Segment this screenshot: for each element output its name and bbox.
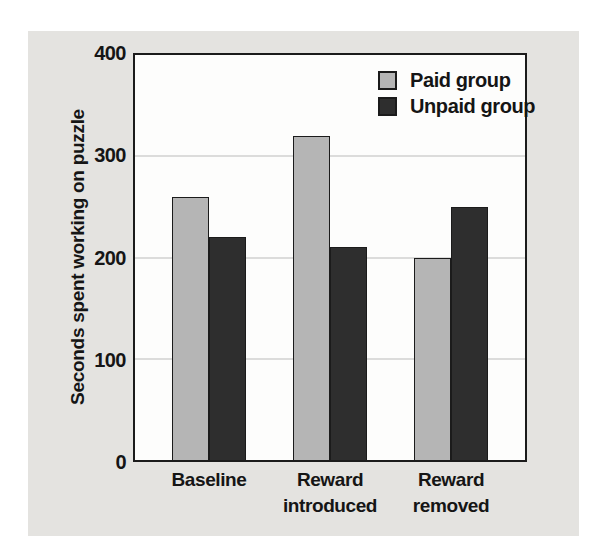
- bar-paid-group-reward-removed: [414, 258, 451, 461]
- y-axis-tick-labels: 0100200300400: [40, 53, 126, 462]
- y-tick-label-100: 100: [94, 350, 126, 370]
- bar-paid-group-baseline: [172, 197, 209, 460]
- bar-paid-group-reward-introduced: [293, 136, 330, 460]
- y-tick-label-200: 200: [94, 248, 126, 268]
- legend-swatch-paid-group: [378, 71, 397, 90]
- x-axis-label-baseline: Baseline: [172, 467, 247, 493]
- figure-canvas: Seconds spent working on puzzle 01002003…: [0, 0, 608, 559]
- bar-unpaid-group-baseline: [209, 237, 246, 460]
- y-tick-label-300: 300: [94, 145, 126, 165]
- legend-item-paid-group: Paid group: [378, 70, 535, 90]
- legend-item-unpaid-group: Unpaid group: [378, 96, 535, 116]
- y-tick-label-400: 400: [94, 43, 126, 63]
- bar-unpaid-group-reward-introduced: [330, 247, 367, 460]
- legend: Paid group Unpaid group: [378, 70, 535, 116]
- bar-group-baseline: Baseline: [172, 55, 246, 460]
- y-tick-label-0: 0: [115, 452, 126, 472]
- x-axis-label-reward-introduced: Reward introduced: [283, 467, 377, 518]
- legend-label-paid-group: Paid group: [410, 70, 510, 90]
- bar-unpaid-group-reward-removed: [451, 207, 488, 460]
- plot-area: BaselineReward introducedReward removed …: [133, 53, 527, 462]
- x-axis-label-reward-removed: Reward removed: [413, 467, 489, 518]
- bar-group-reward-introduced: Reward introduced: [293, 55, 367, 460]
- legend-swatch-unpaid-group: [378, 97, 397, 116]
- legend-label-unpaid-group: Unpaid group: [410, 96, 535, 116]
